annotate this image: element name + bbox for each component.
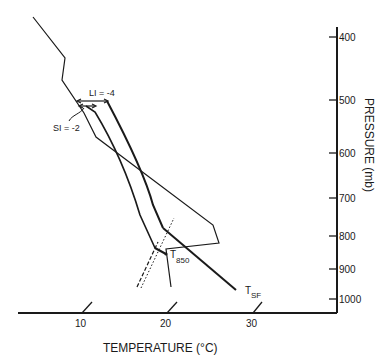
si-label: SI = -2 <box>53 123 80 133</box>
tsf-subscript: SF <box>251 291 261 300</box>
y-tick-label: 1000 <box>339 294 362 305</box>
x-tick-30 <box>253 302 262 313</box>
y-axis-title: PRESSURE (mb) <box>362 98 376 192</box>
x-axis-title: TEMPERATURE (°C) <box>103 341 218 355</box>
t850-connector <box>155 248 166 254</box>
sounding-diagram: 400 500 600 700 800 900 1000 PRESSURE (m… <box>0 0 389 360</box>
x-tick-20 <box>167 302 177 313</box>
li-arrow <box>77 99 108 103</box>
y-tick-label: 800 <box>339 231 356 242</box>
dashed-guide-line <box>137 242 158 287</box>
si-leader-line <box>69 108 84 121</box>
environment-sounding-line <box>33 17 219 287</box>
t850-subscript: 850 <box>176 256 190 265</box>
y-tick-label: 600 <box>339 148 356 159</box>
x-tick-label: 20 <box>160 318 172 329</box>
y-tick-label: 400 <box>339 32 356 43</box>
x-tick-label: 10 <box>75 318 87 329</box>
x-ticks <box>82 302 262 313</box>
x-tick-label: 30 <box>246 318 258 329</box>
y-ticks <box>329 37 337 299</box>
y-tick-label: 900 <box>339 264 356 275</box>
x-tick-10 <box>82 302 92 313</box>
parcel-curve-li <box>107 101 163 228</box>
y-tick-label: 500 <box>339 95 356 106</box>
y-tick-label: 700 <box>339 193 356 204</box>
li-label: LI = -4 <box>89 88 115 98</box>
t850-point <box>165 253 168 256</box>
